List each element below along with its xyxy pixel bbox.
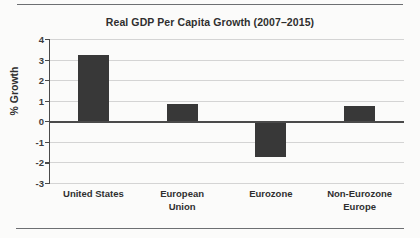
y-axis-title: % Growth — [8, 56, 20, 126]
y-axis-tick — [45, 60, 49, 61]
grid-line — [49, 183, 404, 184]
category-label-line: Europe — [314, 201, 406, 214]
category-label-line: United States — [47, 188, 139, 201]
page-rule-top — [17, 4, 403, 5]
y-axis-tick-label: 2 — [18, 75, 44, 86]
y-axis-tick — [45, 162, 49, 163]
category-label-line: Union — [136, 201, 228, 214]
y-axis-tick — [45, 183, 49, 184]
page-rule-bottom — [16, 228, 404, 229]
y-axis-tick-label: -1 — [18, 136, 44, 147]
y-axis-tick-label: -3 — [18, 178, 44, 189]
x-axis-category-label: Non-EurozoneEurope — [314, 188, 406, 213]
y-axis-tick — [45, 142, 49, 143]
y-axis-tick-label: -2 — [18, 157, 44, 168]
y-axis-tick — [45, 101, 49, 102]
category-label-line: Non-Eurozone — [314, 188, 406, 201]
category-label-line: European — [136, 188, 228, 201]
grid-line — [49, 39, 404, 40]
y-axis-tick-label: 3 — [18, 54, 44, 65]
bar — [78, 55, 109, 121]
plot-area — [49, 39, 404, 183]
zero-line — [49, 121, 404, 122]
bar — [167, 104, 198, 121]
x-axis-category-label: United States — [47, 188, 139, 201]
y-axis-tick-label: 4 — [18, 34, 44, 45]
y-axis-tick-label: 0 — [18, 116, 44, 127]
y-axis-tick-label: 1 — [18, 95, 44, 106]
y-axis-spine — [49, 39, 50, 184]
bar — [255, 121, 286, 157]
bar — [344, 106, 375, 121]
grid-line — [49, 142, 404, 143]
chart-title: Real GDP Per Capita Growth (2007–2015) — [0, 16, 420, 28]
grid-line — [49, 162, 404, 163]
y-axis-tick — [45, 39, 49, 40]
category-label-line: Eurozone — [225, 188, 317, 201]
x-axis-category-label: EuropeanUnion — [136, 188, 228, 213]
x-axis-category-label: Eurozone — [225, 188, 317, 201]
y-axis-tick — [45, 80, 49, 81]
